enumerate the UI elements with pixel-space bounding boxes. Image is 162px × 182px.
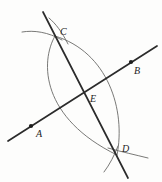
construction-canvas: A B C D E — [0, 0, 162, 182]
label-A: A — [35, 128, 43, 139]
label-E: E — [89, 93, 96, 104]
label-C: C — [60, 26, 67, 37]
point-B-dot — [129, 60, 133, 64]
canvas-background — [0, 0, 162, 182]
point-A-dot — [29, 124, 33, 128]
label-B: B — [134, 65, 140, 76]
geometry-figure: A B C D E — [0, 0, 162, 182]
label-D: D — [121, 143, 130, 154]
